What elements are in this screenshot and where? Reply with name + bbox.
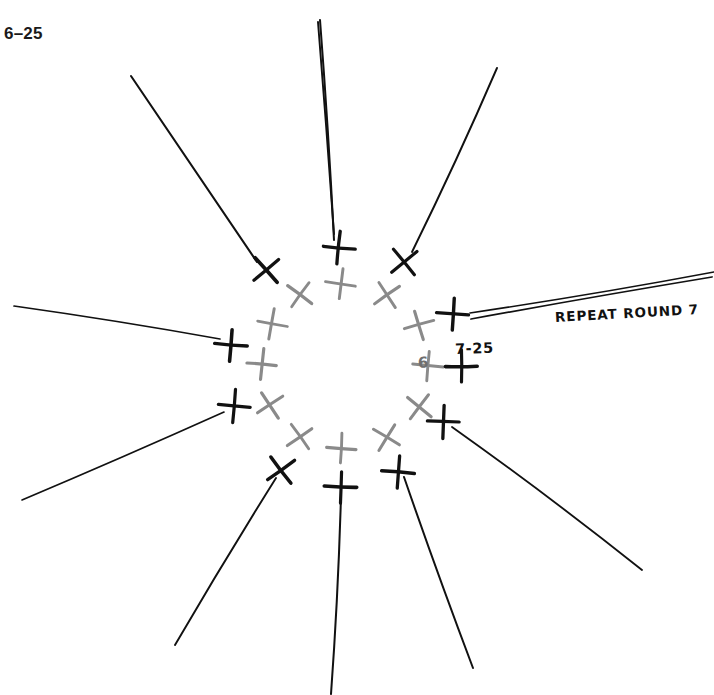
round6-stitch-cross bbox=[279, 274, 321, 316]
round6-stitch-layer bbox=[245, 267, 444, 464]
figure-number-label: 6–25 bbox=[4, 24, 43, 44]
round7-annotation: 7-25 bbox=[455, 340, 494, 357]
round6-stitch-cross bbox=[245, 347, 278, 381]
round7-stitch-cross bbox=[380, 455, 415, 489]
spoke-line bbox=[14, 306, 220, 339]
round6-stitch-cross bbox=[279, 416, 321, 458]
round6-stitch-cross bbox=[250, 384, 292, 426]
round7-stitch-cross bbox=[381, 239, 427, 285]
spoke-line bbox=[404, 477, 473, 668]
figure-canvas: 6–25 REPEAT ROUND 7 7-25 6 bbox=[0, 0, 714, 695]
spoke-line bbox=[175, 478, 276, 645]
round6-stitch-cross bbox=[401, 307, 438, 344]
round7-stitch-cross bbox=[258, 447, 304, 493]
round7-stitch-cross bbox=[322, 230, 357, 266]
spokes-layer bbox=[14, 20, 714, 694]
spoke-line bbox=[131, 76, 257, 262]
spoke-line bbox=[331, 496, 341, 694]
round-chart-svg bbox=[0, 0, 714, 695]
round7-stitch-cross bbox=[213, 329, 248, 363]
round7-stitch-cross bbox=[217, 388, 252, 425]
round7-stitch-cross bbox=[427, 405, 460, 439]
spoke-line bbox=[320, 20, 334, 240]
round6-stitch-cross bbox=[323, 267, 357, 301]
spoke-line bbox=[22, 412, 224, 500]
round6-stitch-cross bbox=[326, 432, 357, 464]
round7-stitch-cross bbox=[324, 471, 358, 504]
round6-stitch-cross bbox=[366, 274, 408, 316]
spoke-line bbox=[452, 427, 642, 570]
round6-stitch-cross bbox=[255, 306, 290, 342]
round7-stitch-cross bbox=[435, 297, 469, 331]
round6-annotation: 6 bbox=[417, 353, 429, 372]
spoke-line bbox=[412, 68, 497, 252]
round6-stitch-cross bbox=[365, 417, 407, 459]
